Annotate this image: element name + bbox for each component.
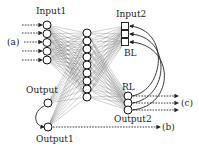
input1-label: Input1 <box>36 6 66 16</box>
output2-arrows <box>133 96 178 110</box>
input2-node <box>122 31 129 38</box>
input1-node <box>43 21 51 29</box>
feedback-curves <box>130 26 164 110</box>
input2-label: Input2 <box>116 9 146 19</box>
input2-node <box>122 39 129 46</box>
a-label: (a) <box>7 37 19 47</box>
bl-label: BL <box>124 48 137 58</box>
hidden-node <box>83 85 91 93</box>
input1-arrows <box>22 25 42 60</box>
output-node <box>44 99 52 107</box>
input1-node <box>43 30 51 38</box>
output2-label: Output2 <box>114 114 152 124</box>
output-loop-curve <box>36 106 44 127</box>
hidden-node <box>83 93 91 101</box>
input2-node <box>122 23 129 30</box>
input1-node <box>43 56 51 64</box>
output1-label: Output1 <box>36 134 74 144</box>
hidden-node <box>83 37 91 45</box>
hidden-node <box>83 29 91 37</box>
hidden-node <box>83 69 91 77</box>
b-label: (b) <box>162 122 175 132</box>
output-node <box>44 123 52 131</box>
hidden-node <box>83 45 91 53</box>
rl-label: RL <box>122 82 135 92</box>
hidden-node <box>83 77 91 85</box>
neural-network-diagram: Input1 Input2 BL RL Output Output1 Outpu… <box>0 0 199 150</box>
output2-node <box>124 106 132 114</box>
input1-node <box>43 47 51 55</box>
c-label: (c) <box>181 98 193 108</box>
hidden-node <box>83 53 91 61</box>
input1-node <box>43 39 51 47</box>
hidden-node <box>83 61 91 69</box>
output-label: Output <box>26 85 58 95</box>
